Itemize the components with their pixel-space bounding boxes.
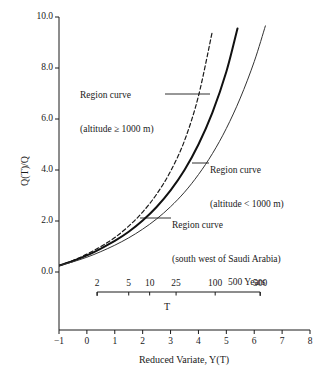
figure-chart: Q(T)/Q Reduced Variate, Y(T) T 500 Years… xyxy=(0,0,321,379)
y-axis-tick-label: 6.0 xyxy=(20,113,53,124)
y-axis-tick-label: 8.0 xyxy=(20,62,53,73)
annotation-line-1: Region curve xyxy=(80,90,154,101)
y-axis-tick-label: 4.0 xyxy=(20,164,53,175)
secondary-axis-tick-label: 10 xyxy=(138,278,162,289)
x-axis-tick-label: 6 xyxy=(244,336,264,347)
x-axis-tick-label: 0 xyxy=(77,336,97,347)
x-axis-tick-label: 7 xyxy=(272,336,292,347)
x-axis-tick-label: −1 xyxy=(49,336,69,347)
x-axis-tick-label: 8 xyxy=(300,336,320,347)
annotation-altitude-ge-1000: Region curve (altitude ≥ 1000 m) xyxy=(80,68,154,158)
secondary-axis-tick-label: 2 xyxy=(85,278,109,289)
x-axis-title: Reduced Variate, Y(T) xyxy=(109,354,259,366)
annotation-south-west-saudi-arabia: Region curve (south west of Saudi Arabia… xyxy=(172,198,281,288)
secondary-axis-tick-label: 500 xyxy=(248,278,272,289)
x-axis-tick-label: 3 xyxy=(161,336,181,347)
y-axis-tick-label: 10.0 xyxy=(20,11,53,22)
annotation-line-1: Region curve xyxy=(172,220,281,231)
secondary-axis-tick-label: 100 xyxy=(203,278,227,289)
y-axis-tick-label: 2.0 xyxy=(20,215,53,226)
annotation-line-2: (south west of Saudi Arabia) xyxy=(172,254,281,265)
secondary-axis-tick-label: 25 xyxy=(164,278,188,289)
x-axis-tick-label: 2 xyxy=(133,336,153,347)
x-axis-tick-label: 1 xyxy=(105,336,125,347)
x-axis-tick-label: 4 xyxy=(188,336,208,347)
y-axis-tick-label: 0.0 xyxy=(20,266,53,277)
secondary-axis-title: T xyxy=(160,301,174,313)
x-axis-tick-label: 5 xyxy=(216,336,236,347)
annotation-line-2: (altitude ≥ 1000 m) xyxy=(80,124,154,135)
annotation-line-1: Region curve xyxy=(210,165,284,176)
